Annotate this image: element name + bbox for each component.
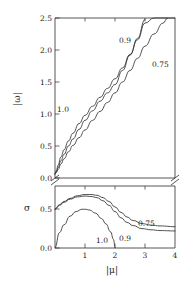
omega-ytick-0.0: 0.0 bbox=[27, 174, 52, 183]
xtick-1: 1 bbox=[79, 251, 91, 260]
axis-break-right-icon bbox=[171, 175, 179, 185]
xtick-2: 2 bbox=[109, 251, 121, 260]
figure-container: 2.5 2.0 1.5 1.0 0.5 0.0 0.5 0.0 1 2 3 4 … bbox=[0, 0, 189, 290]
sigma-axis-label: σ bbox=[24, 203, 30, 213]
omega-ytick-2.5: 2.5 bbox=[27, 14, 52, 23]
sigma-curve-label-0.9: 0.9 bbox=[119, 234, 131, 243]
omega-axis-label: |ω| bbox=[12, 84, 22, 114]
omega-curve-label-0.9: 0.9 bbox=[119, 36, 131, 45]
xtick-3: 3 bbox=[139, 251, 151, 260]
omega-ytick-1.5: 1.5 bbox=[27, 78, 52, 87]
omega-ytick-2.0: 2.0 bbox=[27, 46, 52, 55]
omega-curve-label-1.0: 1.0 bbox=[57, 105, 69, 114]
sigma-ytick-0.0: 0.0 bbox=[27, 244, 52, 253]
omega-curve-label-0.75: 0.75 bbox=[152, 60, 169, 69]
sigma-ytick-0.5: 0.5 bbox=[27, 205, 52, 214]
omega-ytick-1.0: 1.0 bbox=[27, 110, 52, 119]
sigma-curve-label-0.75: 0.75 bbox=[138, 219, 155, 228]
xtick-4: 4 bbox=[169, 251, 181, 260]
sigma-curve-label-1.0: 1.0 bbox=[96, 236, 108, 245]
axis-break-left-icon bbox=[51, 175, 59, 185]
mu-axis-label: |μ| bbox=[106, 265, 118, 275]
omega-ytick-0.5: 0.5 bbox=[27, 142, 52, 151]
